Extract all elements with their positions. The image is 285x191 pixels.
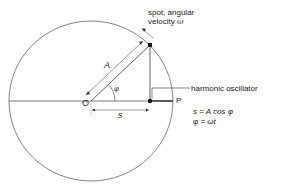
spot-label-line2: velocity xyxy=(148,17,177,26)
displacement-arrowhead-start xyxy=(92,109,95,112)
radius-line xyxy=(91,45,150,101)
oscillator-dot xyxy=(148,99,152,103)
omega-symbol: ω xyxy=(177,17,184,26)
point-p-label: P xyxy=(176,96,181,105)
origin-label: O xyxy=(82,99,89,108)
velocity-arrow xyxy=(144,30,153,38)
diagram-canvas xyxy=(0,0,285,191)
angle-label: φ xyxy=(114,85,119,94)
oscillator-label: harmonic oscillator xyxy=(191,84,258,93)
spot-dot xyxy=(148,43,152,47)
amplitude-label: A xyxy=(104,61,110,70)
equation-phase: φ = ωt xyxy=(193,117,216,126)
oscillator-leader xyxy=(152,88,190,99)
spot-label: spot, angular velocity ω xyxy=(148,8,194,26)
equation-displacement: s = A cos φ xyxy=(193,107,233,116)
spot-label-line1: spot, angular xyxy=(148,8,194,17)
displacement-arrowhead-end xyxy=(146,109,149,112)
displacement-label: s xyxy=(118,111,123,120)
